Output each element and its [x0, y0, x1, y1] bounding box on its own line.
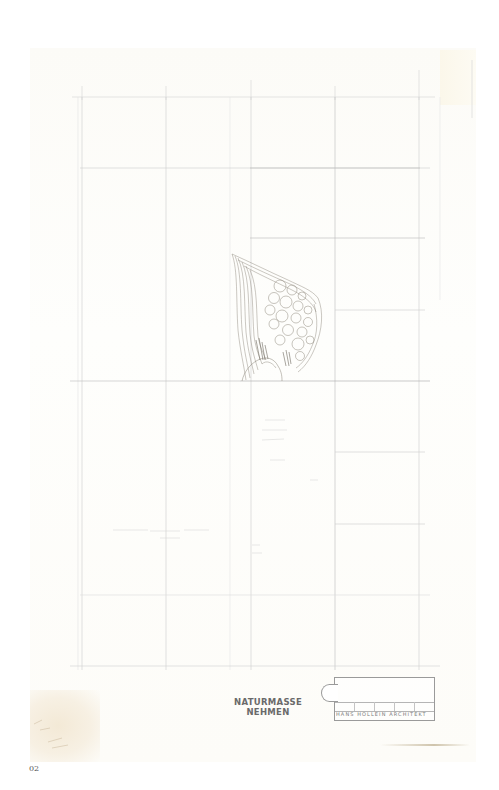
grid-lines [70, 168, 440, 666]
title-block-cell [395, 702, 415, 711]
label-line-1: NATURMASSE [218, 697, 318, 707]
title-block-cell [375, 702, 395, 711]
grid-lines [78, 97, 440, 670]
drawing-title-label: NATURMASSE NEHMEN [218, 697, 318, 717]
title-block-cell [415, 702, 434, 711]
architect-firm-name: HANS HOLLEIN ARCHITEKT [336, 711, 433, 717]
title-block-cells [335, 702, 434, 711]
handwritten-annotations [113, 420, 318, 553]
circle-cluster [265, 280, 314, 361]
dimension-line [72, 60, 472, 118]
title-block: HANS HOLLEIN ARCHITEKT [334, 677, 435, 721]
label-line-2: NEHMEN [218, 707, 318, 717]
title-block-cell [335, 702, 355, 711]
architectural-drawing [0, 0, 499, 790]
title-block-tab [321, 684, 338, 702]
sketch-marks [34, 720, 68, 748]
title-block-cell [355, 702, 375, 711]
figure-caption: 02 [29, 764, 39, 773]
